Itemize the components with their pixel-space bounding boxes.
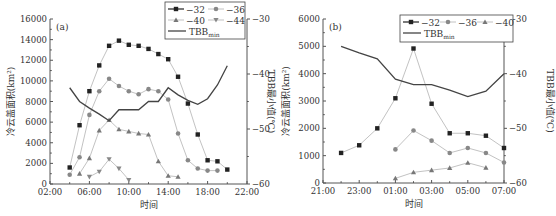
y-tick-label: 1000 (298, 151, 320, 161)
series-m44 (87, 157, 132, 182)
circle-marker (446, 20, 451, 25)
series-m32 (339, 46, 506, 155)
x-tick-label: 21:00 (311, 186, 336, 196)
x-tick-label: 02:00 (38, 187, 63, 197)
x-tick-label: 10:00 (117, 187, 142, 197)
circle-marker (447, 151, 452, 156)
series-TBBmin (70, 66, 228, 121)
legend: −32−36−40−44TBBmin (165, 2, 245, 39)
y-right-tick-label: −30 (252, 14, 270, 24)
square-marker (136, 44, 140, 48)
circle-marker (186, 158, 191, 163)
circle-marker (411, 128, 416, 133)
y-right-axis-title: TBB最小值(℃) (266, 70, 277, 133)
triangle-up-marker (87, 156, 92, 161)
svg-text:−36: −36 (458, 18, 477, 28)
y-right-axis-title: TBB最小值(℃) (545, 69, 556, 132)
chart-panel-a: 0200040006000800010000120001400016000−30… (5, 2, 277, 210)
y-tick-label: 16000 (20, 14, 47, 24)
circle-marker (484, 151, 489, 156)
square-marker (146, 47, 150, 51)
circle-marker (107, 77, 112, 82)
circle-marker (176, 131, 181, 136)
square-marker (127, 43, 131, 47)
circle-marker (502, 160, 507, 165)
square-marker (97, 63, 101, 67)
circle-marker (87, 113, 92, 118)
axes: 0200040006000800010000120001400016000−30… (5, 14, 277, 210)
y-tick-label: 10000 (20, 76, 47, 86)
chart-panel-b: 0100020003000400050006000−30−40−50−6021:… (280, 14, 556, 209)
y-tick-label: 6000 (25, 117, 47, 127)
circle-marker (205, 168, 210, 173)
svg-text:−40: −40 (186, 16, 205, 26)
triangle-up-marker (156, 159, 161, 164)
x-tick-label: 05:00 (456, 186, 481, 196)
triangle-up-marker (465, 160, 470, 165)
square-marker (225, 167, 229, 171)
square-marker (502, 146, 506, 150)
circle-marker (466, 146, 471, 151)
y-axis-title: 冷云盖面积(km²) (5, 67, 16, 137)
y-tick-label: 12000 (20, 55, 47, 65)
square-marker (357, 143, 361, 147)
square-marker (176, 75, 180, 79)
axes: 0100020003000400050006000−30−40−50−6021:… (280, 14, 556, 209)
y-tick-label: 14000 (20, 35, 47, 45)
svg-text:−32: −32 (421, 18, 440, 28)
y-axis-title: 冷云盖面积(km²) (280, 66, 291, 136)
circle-marker (127, 89, 132, 94)
triangle-down-marker (97, 170, 102, 175)
square-marker (117, 38, 121, 42)
svg-text:−44: −44 (226, 16, 245, 26)
square-marker (375, 126, 379, 130)
figure: 0200040006000800010000120001400016000−30… (0, 0, 556, 216)
square-marker (448, 131, 452, 135)
circle-marker (67, 172, 72, 177)
x-axis-title: 时间 (140, 199, 158, 210)
x-tick-label: 03:00 (419, 186, 444, 196)
svg-text:−32: −32 (186, 5, 205, 15)
circle-marker (215, 168, 220, 173)
x-tick-label: 23:00 (347, 186, 372, 196)
y-right-tick-label: −40 (509, 69, 527, 79)
square-marker (68, 165, 72, 169)
legend: −32−36−40TBBmin (400, 15, 514, 42)
square-marker (429, 102, 433, 106)
square-marker (186, 101, 190, 105)
square-marker (174, 7, 178, 11)
circle-marker (156, 89, 161, 94)
chart-canvas: 0200040006000800010000120001400016000−30… (0, 0, 556, 216)
y-tick-label: 2000 (298, 123, 320, 133)
y-tick-label: 3000 (298, 96, 320, 106)
square-marker (107, 44, 111, 48)
svg-text:−40: −40 (495, 18, 514, 28)
square-marker (87, 89, 91, 93)
x-tick-label: 01:00 (383, 186, 408, 196)
series-m40 (393, 160, 489, 180)
circle-marker (77, 155, 82, 160)
circle-marker (393, 147, 398, 152)
square-marker (484, 134, 488, 138)
triangle-up-marker (77, 171, 82, 176)
x-tick-label: 07:00 (492, 186, 517, 196)
y-tick-label: 8000 (25, 97, 47, 107)
circle-marker (146, 87, 151, 92)
circle-marker (195, 166, 200, 171)
square-marker (339, 151, 343, 155)
svg-text:−36: −36 (226, 5, 245, 15)
y-tick-label: 4000 (25, 138, 47, 148)
y-tick-label: 6000 (298, 14, 320, 24)
circle-marker (136, 92, 141, 97)
series-m40 (77, 117, 181, 178)
circle-marker (166, 97, 171, 102)
y-tick-label: 4000 (298, 69, 320, 79)
square-marker (411, 46, 415, 50)
y-right-tick-label: −50 (509, 123, 527, 133)
y-tick-label: 2000 (25, 158, 47, 168)
triangle-down-marker (87, 175, 92, 180)
series-TBBmin (341, 46, 504, 96)
square-marker (393, 96, 397, 100)
x-tick-label: 18:00 (195, 187, 220, 197)
square-marker (466, 131, 470, 135)
